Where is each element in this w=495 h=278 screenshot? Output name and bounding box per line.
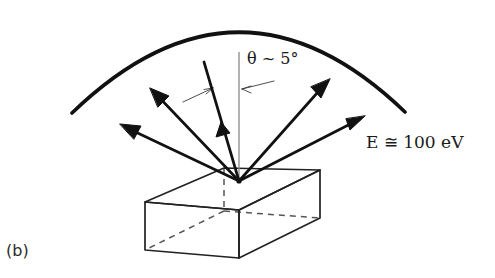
diffracted-beam-3 <box>239 79 330 181</box>
angle-indicator-left-shaft <box>183 88 213 102</box>
incident-beam-arrowhead <box>216 122 230 137</box>
incidence-angle-label: θ ~ 5° <box>247 51 298 67</box>
diffracted-beams-group <box>120 79 365 181</box>
hidden-edge-left <box>145 211 224 250</box>
beam-energy-label: E ≅ 100 eV <box>366 134 463 151</box>
diffracted-beam-3-shaft <box>239 83 326 181</box>
panel-label: (b) <box>6 243 29 259</box>
diffracted-beam-2-arrowhead <box>120 124 141 139</box>
diffracted-beam-4-arrowhead <box>346 116 365 130</box>
beam-convergence-point <box>236 178 241 183</box>
leed-diagram-figure: θ ~ 5° E ≅ 100 eV (b) <box>0 0 495 278</box>
angle-indicator-group <box>183 81 274 102</box>
